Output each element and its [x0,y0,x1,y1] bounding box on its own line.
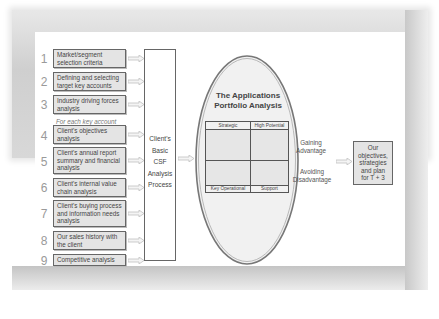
csf-line: Client's [145,133,175,145]
page-shadow-right [405,10,428,290]
output-line: Our [354,144,392,152]
page-shadow-bottom [12,266,428,290]
output-line: and plan [354,167,392,175]
step-number: 7 [38,207,50,221]
section-note: For each key account [56,118,116,125]
output-objectives-box: Our objectives, strategies and plan for … [353,141,393,185]
arrow-icon [128,184,145,191]
step-box-competitive: Competitive analysis [53,254,126,266]
arrow-icon [128,157,145,164]
gaining-line: Gaining [287,139,335,147]
arrow-icon [128,101,145,108]
avoiding-disadvantage-label: Avoiding Disadvantage [288,168,336,183]
output-line: objectives, [354,152,392,160]
csf-line: CSF [145,156,175,168]
step-box-sales-history: Our sales history with the client [53,231,126,250]
csf-line: Process [145,179,175,191]
step-box-industry-forces: Industry driving forces analysis [53,95,126,114]
step-number: 3 [38,98,50,112]
arrow-icon [128,257,145,264]
arrow-icon [178,155,195,162]
matrix-body-left [206,130,250,185]
quadrant-key-operational: Key Operational [206,186,250,191]
step-box-value-chain: Client's internal value chain analysis [53,178,126,197]
portfolio-title-line: The Applications [200,91,296,101]
step-number: 5 [38,155,50,169]
arrow-icon [128,78,145,85]
portfolio-title-line: Portfolio Analysis [200,101,296,111]
csf-analysis-process-label: Client's Basic CSF Analysis Process [145,133,175,191]
avoiding-line: Disadvantage [288,176,336,184]
step-box-annual-report: Client's annual report summary and finan… [53,147,126,174]
step-number: 6 [38,181,50,195]
portfolio-matrix: Strategic High Potential Key Operational… [205,121,289,193]
arrow-icon [128,55,145,62]
csf-analysis-process-box: Client's Basic CSF Analysis Process [144,49,176,261]
csf-line: Analysis [145,168,175,180]
output-line: strategies [354,159,392,167]
step-number: 2 [38,75,50,89]
gaining-line: Advantage [287,147,335,155]
matrix-body-right [251,130,288,185]
step-number: 8 [38,234,50,248]
arrow-icon [336,158,353,165]
step-number: 9 [38,254,50,268]
quadrant-strategic: Strategic [206,123,250,128]
avoiding-line: Avoiding [288,168,336,176]
step-box-key-accounts: Defining and selecting target key accoun… [53,72,126,91]
quadrant-support: Support [251,186,288,191]
matrix-mid-line [206,160,288,161]
step-number: 4 [38,129,50,143]
arrow-icon [128,237,145,244]
arrow-icon [128,210,145,217]
portfolio-title: The Applications Portfolio Analysis [200,91,296,111]
quadrant-high-potential: High Potential [251,123,288,128]
output-line: for T + 3 [354,174,392,182]
gaining-advantage-label: Gaining Advantage [287,139,335,154]
csf-line: Basic [145,145,175,157]
arrow-icon [128,131,145,138]
step-number: 1 [38,52,50,66]
step-box-client-objectives: Client's objectives analysis [53,125,126,144]
step-box-market-segment: Market/segment selection criteria [53,49,126,68]
step-box-buying-process: Client's buying process and information … [53,200,126,227]
